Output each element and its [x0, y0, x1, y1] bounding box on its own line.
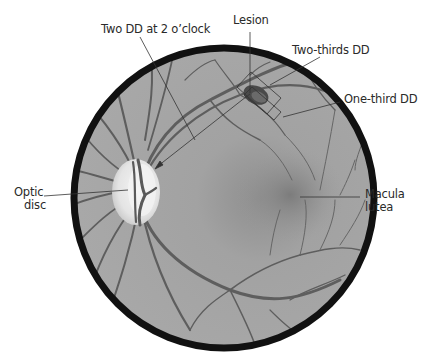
label-two-thirds-dd: Two-thirds DD — [292, 44, 370, 57]
label-macula-lutea: Macula lutea — [365, 188, 405, 214]
macula-lutea — [235, 147, 345, 243]
fundus — [72, 45, 376, 350]
label-lesion: Lesion — [233, 14, 269, 27]
label-macula-line2: lutea — [365, 201, 405, 214]
label-one-third-dd: One-third DD — [344, 93, 417, 106]
label-optic-disc-line2: disc — [14, 199, 46, 212]
fundus-diagram: Two DD at 2 o’clock Lesion Two-thirds DD… — [0, 0, 430, 361]
label-optic-disc: Optic disc — [14, 186, 46, 212]
label-two-dd-at-2-oclock: Two DD at 2 o’clock — [101, 23, 210, 36]
